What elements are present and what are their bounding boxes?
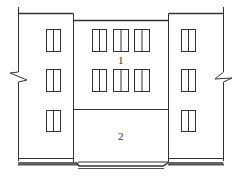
section-label-1: 1 — [118, 54, 124, 66]
section-label-2: 2 — [118, 130, 124, 142]
left-wing — [18, 7, 74, 162]
right-break-symbol-icon — [215, 72, 232, 82]
left-wing-windows — [47, 30, 61, 132]
left-break-symbol-icon — [10, 72, 27, 82]
building-elevation-diagram: 1 2 — [0, 0, 236, 187]
ground-hatching — [18, 163, 224, 169]
right-wing-windows — [182, 30, 196, 132]
